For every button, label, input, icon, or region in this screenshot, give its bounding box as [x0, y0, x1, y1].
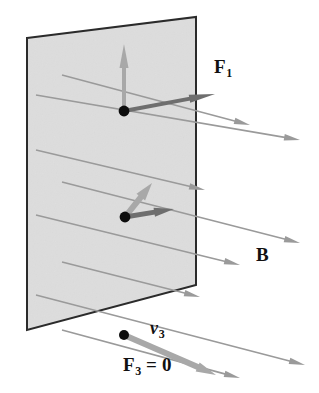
- velocity-3-label: v3: [150, 319, 164, 337]
- force-3-symbol: F: [123, 354, 135, 375]
- physics-figure: F1 B v3 F3 = 0: [0, 0, 319, 393]
- force-1-symbol: F: [214, 56, 226, 77]
- field-line-7-head: [289, 358, 305, 365]
- force-3-equals-zero: = 0: [141, 354, 172, 375]
- field-label: B: [256, 245, 269, 264]
- field-symbol: B: [256, 244, 269, 265]
- velocity-1-arrow-head: [189, 94, 215, 103]
- charge-3: [119, 330, 129, 340]
- force-1-label: F1: [214, 57, 232, 76]
- charge-1: [119, 106, 130, 117]
- velocity-3-subscript: 3: [159, 327, 165, 341]
- field-line-6-head: [184, 290, 200, 297]
- force-3-label: F3 = 0: [123, 355, 172, 374]
- field-line-1-head: [284, 134, 300, 140]
- plane-texture: [27, 17, 196, 330]
- force-3-subscript: 3: [135, 364, 141, 378]
- field-line-8-head: [224, 371, 240, 378]
- force-1-subscript: 1: [226, 66, 232, 80]
- field-line-5-head: [224, 258, 240, 265]
- charge-2: [120, 212, 131, 223]
- field-line-4-head: [284, 236, 300, 243]
- velocity-3-symbol: v: [150, 318, 158, 338]
- field-line-2-head: [234, 118, 250, 125]
- magnetic-field-plane: [27, 17, 196, 330]
